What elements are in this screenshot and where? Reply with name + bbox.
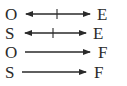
diagram-svg: O E S E O F S F [0,0,127,86]
row-2-left-label: S [5,24,14,43]
row-3-left-label: O [5,43,17,62]
row-1-right-label: E [97,5,107,24]
row-4-left-label: S [5,63,14,82]
row-3: O F [5,43,107,62]
row-4-right-label: F [94,63,103,82]
logic-relation-diagram: O E S E O F S F [0,0,127,86]
row-2-right-label: E [93,24,103,43]
row-2: S E [5,24,103,43]
row-1-left-label: O [5,5,17,24]
row-3-right-label: F [98,43,107,62]
row-4: S F [5,63,103,82]
row-1: O E [5,5,107,24]
